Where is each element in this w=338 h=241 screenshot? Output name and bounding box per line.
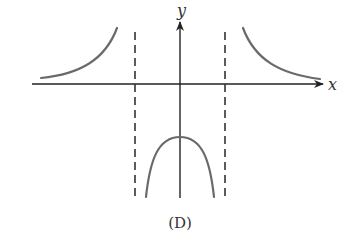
- figure-caption: (D): [168, 214, 192, 232]
- graph-figure: y x (D): [0, 0, 338, 241]
- y-axis-label: y: [176, 1, 187, 20]
- left-branch-curve: [41, 28, 117, 78]
- x-axis-label: x: [328, 75, 337, 94]
- right-branch-curve: [243, 28, 320, 79]
